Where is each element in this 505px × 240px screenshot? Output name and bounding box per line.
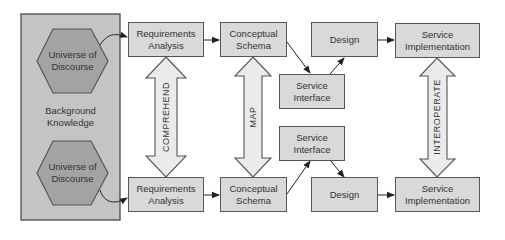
- service-interface-bottom-box: ServiceInterface: [279, 126, 345, 161]
- service-interface-top-box: ServiceInterface: [279, 74, 345, 109]
- design-bottom-label: Design: [330, 189, 360, 201]
- impl-top-line1: Service: [405, 29, 470, 41]
- conceptual-schema-bottom-box: ConceptualSchema: [220, 177, 287, 212]
- background-knowledge-label: Background Knowledge: [21, 105, 120, 129]
- concept-bottom-line2: Schema: [229, 195, 277, 207]
- arrow-conceptual-to-interface-top: [287, 42, 310, 73]
- design-top-label: Design: [330, 34, 360, 46]
- iface-bottom-line1: Service: [294, 132, 331, 144]
- universe-top-label: Universe of Discourse: [37, 49, 108, 73]
- concept-top-line2: Schema: [229, 40, 277, 52]
- requirements-analysis-bottom-box: RequirementsAnalysis: [128, 177, 204, 212]
- iface-top-line1: Service: [294, 80, 331, 92]
- service-implementation-bottom-box: ServiceImplementation: [395, 177, 480, 212]
- req-top-line1: Requirements: [136, 28, 195, 40]
- conceptual-schema-top-box: ConceptualSchema: [220, 22, 287, 57]
- concept-bottom-line1: Conceptual: [229, 183, 277, 195]
- map-label: MAP: [247, 77, 259, 157]
- impl-bottom-line2: Implementation: [405, 195, 470, 207]
- universe-top-line1: Universe of: [37, 49, 108, 61]
- design-bottom-box: Design: [311, 177, 378, 212]
- background-line1: Background: [21, 105, 120, 117]
- universe-bottom-label: Universe of Discourse: [37, 161, 108, 185]
- arrow-interface-to-design-bottom: [330, 160, 344, 177]
- req-bottom-line2: Analysis: [136, 195, 195, 207]
- iface-top-line2: Interface: [294, 92, 331, 104]
- service-implementation-top-box: ServiceImplementation: [395, 23, 480, 58]
- arrow-conceptual-to-interface-bottom: [287, 161, 310, 194]
- universe-bottom-line1: Universe of: [37, 161, 108, 173]
- impl-top-line2: Implementation: [405, 41, 470, 53]
- arrow-interface-to-design-top: [330, 58, 344, 74]
- background-line2: Knowledge: [21, 117, 120, 129]
- req-top-line2: Analysis: [136, 40, 195, 52]
- iface-bottom-line2: Interface: [294, 144, 331, 156]
- concept-top-line1: Conceptual: [229, 28, 277, 40]
- universe-top-line2: Discourse: [37, 61, 108, 73]
- comprehend-label: COMPREHEND: [160, 67, 172, 167]
- requirements-analysis-top-box: RequirementsAnalysis: [128, 22, 204, 57]
- impl-bottom-line1: Service: [405, 183, 470, 195]
- req-bottom-line1: Requirements: [136, 183, 195, 195]
- universe-bottom-line2: Discourse: [37, 173, 108, 185]
- interoperate-label: INTEROPERATE: [431, 67, 443, 167]
- design-top-box: Design: [311, 22, 378, 57]
